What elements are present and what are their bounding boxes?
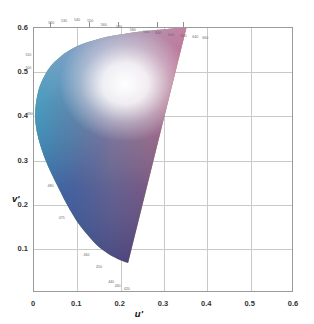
gamut-svg (34, 28, 294, 293)
wavelength-label: 480 (47, 184, 53, 188)
x-tick-label: 0.1 (71, 299, 81, 308)
wavelength-label: 530 (61, 19, 67, 23)
y-tick-label: 0.3 (8, 155, 28, 164)
y-tick-label: 0.6 (8, 23, 28, 32)
x-tick-label: 0.3 (158, 299, 168, 308)
wavelength-label: 450 (96, 265, 102, 269)
gamut-gradients (34, 28, 294, 293)
y-tick-label: 0.5 (8, 67, 28, 76)
x-tick-label: 0 (31, 299, 35, 308)
wavelength-tickmark (157, 22, 158, 27)
x-tick-label: 0.6 (288, 299, 298, 308)
wavelength-label: 540 (74, 18, 80, 22)
wavelength-label: 620 (181, 34, 187, 38)
y-tick-label: 0.4 (8, 111, 28, 120)
wavelength-label: 590 (143, 30, 149, 34)
x-tick-label: 0.4 (201, 299, 211, 308)
wavelength-label: 550 (87, 19, 93, 23)
gamut-fill (34, 28, 294, 293)
wavelength-label: 600 (155, 31, 161, 35)
x-tick-label: 0.2 (114, 299, 124, 308)
wavelength-label: 440 (108, 280, 114, 284)
wavelength-label: 420 (124, 287, 130, 291)
wavelength-tickmark (118, 22, 119, 27)
x-axis-label: u' (135, 308, 143, 319)
wavelength-label: 475 (59, 216, 65, 220)
wavelength-label: 430 (115, 284, 121, 288)
wavelength-tickmark (89, 22, 90, 27)
wavelength-label: 560 (101, 23, 107, 27)
wavelength-label: 510 (25, 53, 31, 57)
wavelength-label: 580 (130, 28, 136, 32)
x-tick-label: 0.5 (244, 299, 254, 308)
y-tick-label: 0.1 (8, 243, 28, 252)
wavelength-label: 570 (116, 25, 122, 29)
wavelength-label: 610 (168, 33, 174, 37)
plot-area: 5205305405505605705805906006106206406605… (33, 27, 293, 292)
y-axis-label: v' (12, 193, 20, 204)
wavelength-label: 520 (48, 21, 54, 25)
wavelength-tickmark (50, 22, 51, 27)
chromaticity-diagram: 5205305405505605705805906006106206406605… (0, 0, 314, 324)
wavelength-tickmark (183, 22, 184, 27)
wavelength-label: 640 (192, 35, 198, 39)
wavelength-label: 660 (202, 36, 208, 40)
wavelength-label: 460 (83, 253, 89, 257)
